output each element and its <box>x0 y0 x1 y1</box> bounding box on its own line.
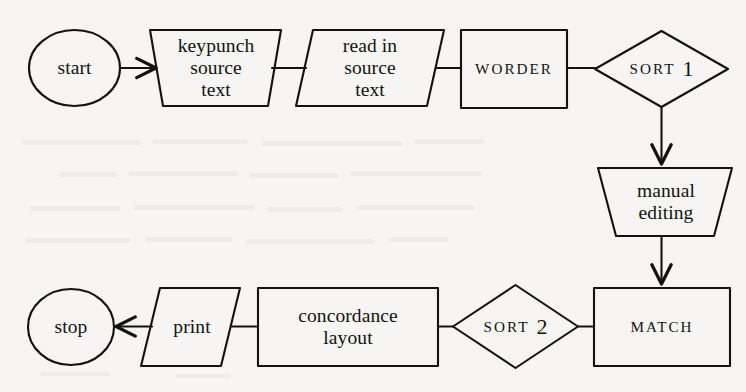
flowchart-canvas <box>0 0 746 392</box>
node-sort1 <box>595 31 728 107</box>
node-sort2 <box>453 285 578 368</box>
node-read-in <box>296 30 444 106</box>
node-keypunch <box>150 30 281 106</box>
node-start <box>29 30 120 106</box>
node-stop <box>28 289 114 365</box>
node-manual-editing <box>598 168 732 236</box>
node-print <box>141 288 240 366</box>
node-concordance <box>258 288 438 366</box>
node-worder <box>461 30 567 108</box>
flowchart-figure: start keypunch source text read in sourc… <box>0 0 746 392</box>
node-match <box>594 288 730 366</box>
